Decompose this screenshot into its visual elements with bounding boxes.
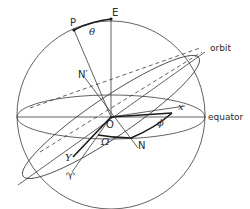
label-vernal-equinox: ♈ xyxy=(66,171,75,182)
label-O: O xyxy=(106,119,114,130)
label-Y: Y xyxy=(65,152,73,163)
label-x: x xyxy=(178,101,184,112)
label-omega: Ω xyxy=(100,136,109,147)
label-phi: ϕ xyxy=(157,117,164,128)
label-P: P xyxy=(70,17,76,28)
celestial-sphere-diagram: P E θ N′ O orbit equator x Y ϕ Ω N ♈ xyxy=(0,0,250,209)
label-theta: θ xyxy=(89,26,95,37)
label-N-prime: N′ xyxy=(78,69,88,80)
point-P xyxy=(72,28,75,31)
label-E: E xyxy=(112,7,118,18)
label-equator: equator xyxy=(208,112,244,122)
label-N: N xyxy=(138,140,145,151)
label-orbit: orbit xyxy=(210,43,231,53)
